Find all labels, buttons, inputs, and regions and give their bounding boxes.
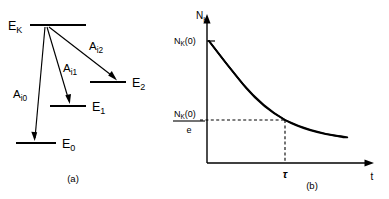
transition-arrow-Ai0: [31, 27, 45, 141]
x-tick-label-tau: τ: [283, 168, 288, 180]
level-label-E0: E0: [62, 137, 75, 153]
panel-b-decay-curve-plot: NK NK(0) NK(0) e τ t (b): [173, 10, 374, 191]
panel-a-energy-level-diagram: EK E2 E1 E0 Ai2 Ai1 Ai0 (a): [0, 0, 389, 199]
x-axis: [207, 159, 374, 166]
figure-root: EK E2 E1 E0 Ai2 Ai1 Ai0 (a): [0, 0, 389, 199]
level-label-E2: E2: [132, 76, 145, 92]
y-tick-label-NK0-over-e: NK(0) e: [173, 109, 205, 135]
level-label-E1: E1: [92, 100, 105, 116]
panel-b-caption: (b): [306, 180, 318, 191]
transition-label-Ai1: Ai1: [63, 62, 78, 77]
fraction-denominator: e: [186, 125, 191, 135]
x-axis-label: t: [371, 171, 374, 182]
panel-a-caption: (a): [67, 173, 79, 184]
transition-label-Ai0: Ai0: [13, 88, 28, 103]
y-axis: [203, 14, 210, 163]
transition-label-Ai2: Ai2: [89, 40, 104, 55]
decay-curve: [209, 41, 343, 137]
y-tick-label-NK0: NK(0): [174, 36, 196, 47]
decay-curve-path: [209, 41, 347, 137]
y-axis-label: NK: [196, 10, 208, 24]
level-label-EK: EK: [8, 19, 22, 35]
transition-arrow-Ai2: [49, 27, 117, 81]
fraction-numerator: NK(0): [174, 109, 196, 120]
